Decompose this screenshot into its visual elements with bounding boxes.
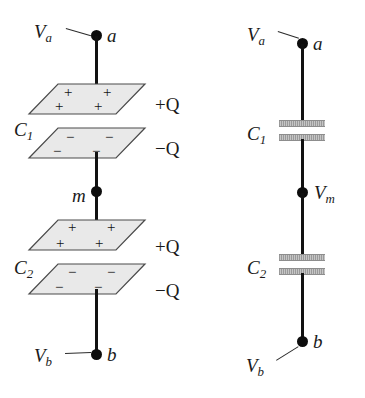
physical-wire-c2-to-b [95, 289, 98, 355]
physical-c2-bottom-charge-label: −Q [155, 281, 179, 300]
physical-c2-top-charge-sign: + [95, 236, 103, 251]
physical-bottom-potential-label: Vb [34, 346, 52, 369]
schematic-node-a-label: a [313, 34, 323, 53]
physical-c2-bottom-plate: − − − − [28, 262, 146, 296]
physical-c1-bottom-charge-sign: − [66, 130, 74, 145]
physical-node-b-dot [91, 349, 102, 360]
physical-node-m-label: m [72, 186, 86, 205]
schematic-top-leader-line [278, 31, 299, 39]
schematic-top-potential-label: Va [247, 25, 265, 48]
physical-node-b-label: b [107, 345, 117, 364]
physical-c2-top-charge-label: +Q [155, 237, 179, 256]
schematic-bottom-potential-label: Vb [246, 356, 264, 379]
schematic-wire-m-to-c2 [301, 193, 304, 255]
schematic-node-b-dot [297, 336, 308, 347]
schematic-node-b-label: b [313, 332, 323, 351]
physical-c2-bottom-charge-sign: − [107, 265, 115, 280]
physical-c1-bottom-charge-sign: − [105, 130, 113, 145]
schematic-c1-label: C1 [247, 124, 266, 147]
physical-c1-top-charge-sign: + [55, 99, 63, 114]
physical-c1-top-charge-sign: + [94, 99, 102, 114]
physical-top-potential-label: Va [34, 22, 52, 45]
physical-c1-bottom-charge-sign: − [53, 144, 61, 159]
schematic-c1-capacitor-symbol [279, 120, 325, 141]
schematic-c1-plate-top [279, 120, 325, 127]
schematic-bottom-leader-line [276, 346, 299, 361]
physical-c2-bottom-charge-sign: − [55, 280, 63, 295]
schematic-wire-c1-to-m [301, 139, 304, 194]
schematic-c2-label: C2 [247, 258, 266, 281]
physical-top-leader-line [66, 28, 91, 36]
physical-c2-top-plate: + + + + [28, 218, 146, 252]
physical-c2-top-charge-sign: + [56, 236, 64, 251]
physical-c1-top-charge-sign: + [64, 85, 72, 100]
physical-c1-bottom-charge-label: −Q [155, 139, 179, 158]
physical-c1-top-charge-sign: + [103, 85, 111, 100]
physical-node-m-dot [91, 186, 102, 197]
schematic-wire-a-to-c1 [301, 44, 304, 121]
physical-c1-top-plate: + + + + [28, 82, 146, 116]
physical-c2-top-charge-sign: + [68, 220, 76, 235]
physical-c2-bottom-charge-sign: − [68, 265, 76, 280]
schematic-c2-capacitor-symbol [279, 254, 325, 275]
capacitors-in-series-figure: Va a + + + + +Q C1 − − [0, 0, 365, 398]
physical-c1-top-charge-label: +Q [155, 95, 179, 114]
physical-node-a-label: a [107, 26, 117, 45]
schematic-middle-potential-label: Vm [314, 183, 335, 206]
physical-c1-bottom-plate: − − − − [28, 126, 146, 160]
physical-c2-top-charge-sign: + [107, 220, 115, 235]
physical-bottom-leader-line [65, 352, 91, 354]
schematic-wire-c2-to-b [301, 273, 304, 341]
schematic-c2-plate-top [279, 254, 325, 261]
